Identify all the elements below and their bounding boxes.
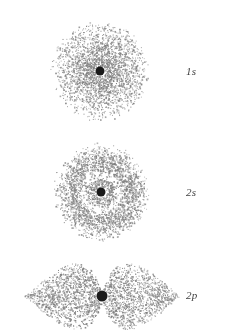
orbital-label-2s: 2s xyxy=(186,187,196,198)
orbital-label-1s: 1s xyxy=(186,66,196,77)
orbital-label-2p: 2p xyxy=(186,290,197,301)
orbital-diagram: 1s 2s 2p xyxy=(0,0,226,335)
